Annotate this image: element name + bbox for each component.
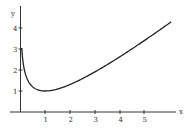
x-axis-label: x	[179, 108, 183, 116]
x-tick-label: 3	[94, 116, 98, 124]
y-tick-label: 2	[13, 67, 17, 75]
y-tick-label: 4	[13, 25, 18, 33]
function-curve	[22, 22, 171, 91]
chart: x y 1 2 3 4 5 1 2 3 4	[0, 0, 184, 129]
x-tick-label: 4	[119, 116, 124, 124]
y-tick-label: 1	[13, 88, 17, 96]
x-tick-label: 1	[44, 116, 48, 124]
y-ticks: 1 2 3 4	[13, 25, 23, 96]
y-tick-label: 3	[13, 46, 17, 54]
y-axis-label: y	[10, 10, 15, 18]
x-tick-label: 2	[69, 116, 73, 124]
x-tick-label: 5	[143, 116, 147, 124]
